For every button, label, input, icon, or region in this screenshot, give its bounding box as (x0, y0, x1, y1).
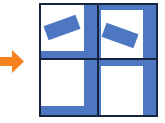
tilted-bar (43, 15, 80, 41)
tilted-bar (101, 23, 138, 49)
grid-border-left (39, 3, 41, 117)
grid-diagram (39, 3, 158, 117)
grid-border-right (156, 3, 158, 117)
grid-divider-horizontal (39, 58, 158, 60)
right-arrow-icon (0, 50, 24, 73)
grid-divider-vertical (97, 3, 99, 117)
